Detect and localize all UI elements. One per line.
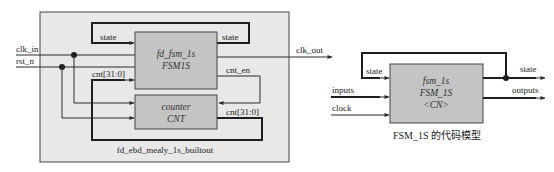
- cnt-out-label: cnt[31:0]: [226, 107, 259, 117]
- diagram-canvas: fd_ebd_mealy_1s_builtout fd_fsm_1s FSM1S…: [0, 0, 554, 172]
- rst-n-label: rst_n: [16, 56, 35, 66]
- fsm-1s-instance-name: fsm_1s: [423, 76, 450, 86]
- fsm-1s-tag: <CN>: [423, 100, 449, 110]
- counter-module-name: CNT: [167, 114, 186, 124]
- inputs-label: inputs: [332, 85, 355, 95]
- fsm-module-name: FSM1S: [161, 61, 190, 71]
- right-diagram: fsm_1s FSM_1S <CN> state state outputs i…: [331, 53, 545, 141]
- state-in-label: state: [100, 32, 117, 42]
- state-out-label: state: [222, 32, 239, 42]
- container-label: fd_ebd_mealy_1s_builtout: [117, 145, 214, 155]
- fsm-1s-module-name: FSM_1S: [419, 88, 453, 98]
- clk-out-label: clk_out: [296, 45, 323, 55]
- state-out-label-right: state: [520, 64, 537, 74]
- clock-label: clock: [332, 103, 352, 113]
- cnt-in-label: cnt[31:0]: [92, 69, 125, 79]
- right-diagram-caption: FSM_1S 的代码模型: [393, 129, 481, 141]
- clk-in-label: clk_in: [16, 44, 39, 54]
- fsm-instance-name: fd_fsm_1s: [157, 49, 196, 59]
- cnt-en-label: cnt_en: [226, 65, 250, 75]
- counter-instance-name: counter: [161, 102, 190, 112]
- left-diagram: fd_ebd_mealy_1s_builtout fd_fsm_1s FSM1S…: [16, 12, 332, 162]
- state-in-label-right: state: [366, 66, 383, 76]
- outputs-label: outputs: [512, 85, 539, 95]
